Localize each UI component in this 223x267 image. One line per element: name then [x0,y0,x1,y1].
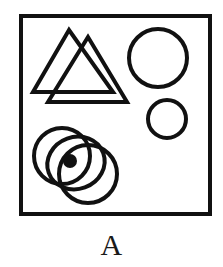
circle-large-right-shape [129,29,187,87]
circle-small-right-shape [148,100,186,138]
geometric-shapes-diagram [0,0,223,267]
dot-center-shape [63,154,77,168]
panel-label: A [0,228,223,262]
figure-panel: A [0,0,223,267]
